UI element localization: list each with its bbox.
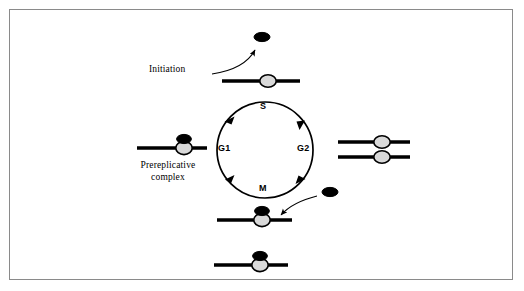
- label-prereplicative-line1: Prereplicative: [141, 160, 196, 170]
- licensing-load-arrow: [281, 196, 317, 215]
- origin-complex-icon-lower: [374, 151, 390, 164]
- origin-complex-icon: [260, 75, 276, 88]
- label-initiation: Initiation: [149, 64, 185, 74]
- dna-replicated-pair: [338, 136, 410, 164]
- origin-complex-icon-upper: [374, 136, 390, 149]
- cycle-arrowhead-m-to-g1: [225, 175, 235, 184]
- initiation-arrow: [212, 50, 255, 74]
- figure-root: Initiation Prereplicativecomplex S G1 G2…: [0, 0, 524, 291]
- label-prereplicative-line2: complex: [151, 172, 185, 182]
- licensing-factor-icon: [177, 134, 192, 143]
- cell-cycle-diagram: [0, 0, 524, 291]
- licensing-factor-icon: [253, 251, 268, 260]
- dna-prereplicative-complex: [137, 134, 207, 154]
- licensing-factor-free-bottom: [322, 187, 338, 196]
- licensing-factor-icon: [255, 206, 270, 215]
- dna-post-mitosis: [217, 206, 292, 226]
- cycle-arrowhead-s-to-g2: [297, 121, 306, 131]
- label-prereplicative-complex: Prereplicativecomplex: [129, 160, 207, 183]
- licensing-factor-released-top: [254, 32, 270, 41]
- label-phase-s: S: [260, 101, 266, 111]
- dna-initiation: [222, 75, 300, 88]
- label-phase-m: M: [259, 183, 267, 193]
- label-phase-g2: G2: [297, 143, 309, 153]
- dna-g1-reset: [214, 251, 288, 271]
- label-phase-g1: G1: [218, 143, 230, 153]
